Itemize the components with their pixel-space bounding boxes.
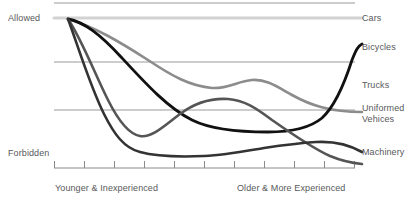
legend-item-machinery: Machinery [362,147,404,158]
line-chart-plot [0,0,414,206]
y-axis-top-label: Allowed [8,13,40,23]
series-line-trucks [68,19,362,132]
x-axis-right-label: Older & More Experienced [237,183,345,193]
x-axis-left-label: Younger & Inexperienced [55,183,158,193]
y-axis-bottom-label: Forbidden [8,148,49,158]
chart-container: Allowed Forbidden Younger & Inexperience… [0,0,414,206]
legend-item-cars: Cars [362,13,381,24]
legend-item-bicycles: Bicycles [362,42,396,53]
legend-item-uniformed-vehices: Uniformed Vehices [362,103,404,124]
legend-item-trucks: Trucks [362,80,389,91]
series-line-bicycles [68,19,362,112]
x-axis-ticks [55,161,355,168]
